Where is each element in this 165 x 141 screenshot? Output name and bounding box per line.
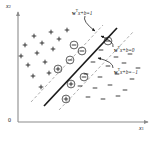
point-positive-class xyxy=(39,85,44,90)
annotation-leader-lines xyxy=(84,16,113,68)
point-positive-class xyxy=(49,30,54,35)
line-lower-margin xyxy=(31,25,103,102)
y-axis-label: x2 xyxy=(6,3,11,9)
annotation-lower-margin: wTx+b=−1 xyxy=(114,69,138,75)
point-positive-class-support xyxy=(62,95,70,103)
svm-diagram-canvas xyxy=(0,0,165,141)
point-positive-class xyxy=(65,28,70,33)
point-positive-class xyxy=(23,43,28,48)
point-positive-class xyxy=(43,60,48,65)
point-positive-class xyxy=(35,51,40,56)
point-negative-class-support xyxy=(78,47,86,55)
point-positive-class xyxy=(57,37,62,42)
axes xyxy=(18,12,148,122)
equation-tail: x+b=1 xyxy=(78,10,93,16)
data-points xyxy=(19,28,141,103)
point-positive-class xyxy=(19,54,24,59)
equation-tail: x+b=−1 xyxy=(120,69,138,75)
point-negative-class-support xyxy=(66,56,74,64)
point-negative-class-support xyxy=(70,41,78,49)
origin-label: 0 xyxy=(8,117,11,123)
equation-tail: x+b=0 xyxy=(120,47,135,53)
point-positive-class xyxy=(31,74,36,79)
point-positive-class xyxy=(32,34,37,39)
upper-margin-leader xyxy=(84,16,95,31)
point-positive-class xyxy=(26,63,31,68)
point-positive-class-support xyxy=(67,80,75,88)
x-axis-label: x1 xyxy=(139,125,144,131)
point-positive-class xyxy=(51,47,56,52)
point-positive-class-support xyxy=(54,65,62,73)
svm-margin-figure: x2 x1 0 wTx+b=1 wTx+b=0 wTx+b=−1 xyxy=(0,0,165,141)
annotation-hyperplane: wTx+b=0 xyxy=(114,47,134,53)
annotation-upper-margin: wTx+b=1 xyxy=(72,10,92,16)
point-positive-class xyxy=(40,41,45,46)
point-positive-class xyxy=(47,71,52,76)
